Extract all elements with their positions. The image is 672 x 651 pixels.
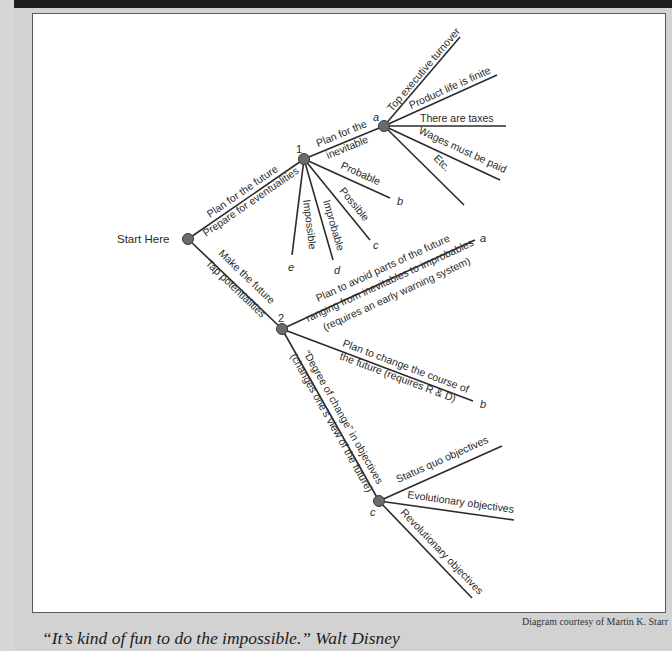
leaf-there-are-taxes: There are taxes <box>420 112 494 124</box>
label-probable: Probable <box>339 159 382 187</box>
leaf-wages-paid: Wages must be paid <box>417 124 509 175</box>
label-changes-view: (changes one’s view of the future) <box>288 351 376 494</box>
leaf-evolutionary: Evolutionary objectives <box>407 488 515 515</box>
letter-b-probable: b <box>397 195 403 207</box>
leaf-revolutionary: Revolutionary objectives <box>399 506 486 596</box>
node-1a <box>379 121 390 132</box>
node-2-number: 2 <box>278 312 284 324</box>
leaf-etc: Etc. <box>432 152 453 173</box>
letter-a-avoid: a <box>480 232 486 244</box>
leaf-status-quo: Status quo objectives <box>394 433 490 485</box>
node-1 <box>299 154 310 165</box>
label-possible: Possible <box>337 185 371 223</box>
start-node <box>183 234 194 245</box>
label-impossible: Impossible <box>301 199 319 250</box>
letter-c-objectives: c <box>370 506 376 518</box>
letter-e-impossible: e <box>288 261 294 273</box>
node-2 <box>277 324 288 335</box>
letter-b-change: b <box>480 398 486 410</box>
start-label: Start Here <box>117 233 169 245</box>
diagram-credit: Diagram courtesy of Martin K. Starr <box>522 616 668 627</box>
quote-text: “It’s kind of fun to do the impossible.”… <box>42 628 400 649</box>
decision-tree-diagram: Start Here Plan for the future Prepare f… <box>0 0 672 651</box>
letter-d-improbable: d <box>334 264 341 276</box>
letter-c-possible: c <box>373 239 379 251</box>
node-1-number: 1 <box>296 143 302 155</box>
node-1a-letter: a <box>373 111 379 123</box>
node-2c <box>374 496 385 507</box>
